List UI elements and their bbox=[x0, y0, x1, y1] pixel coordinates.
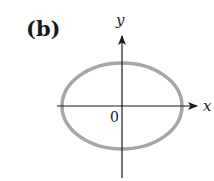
panel-label: (b) bbox=[26, 16, 61, 41]
x-axis-label: x bbox=[203, 97, 212, 115]
ellipse-diagram: (b) x y 0 bbox=[0, 0, 214, 181]
origin-label: 0 bbox=[110, 109, 119, 125]
y-axis-label: y bbox=[115, 11, 125, 29]
